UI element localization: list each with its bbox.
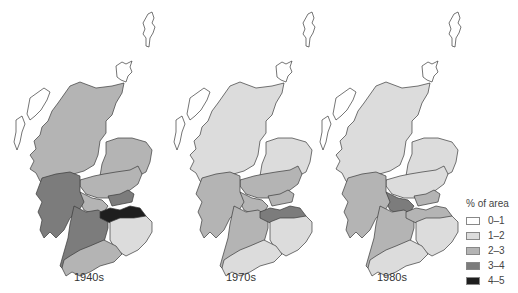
legend-label: 0–1 bbox=[488, 215, 505, 226]
legend-title: % of area bbox=[466, 198, 509, 209]
legend-label: 4–5 bbox=[488, 275, 505, 286]
legend: % of area 0–1 1–2 2–3 3–4 4–5 bbox=[466, 198, 509, 288]
legend-swatch bbox=[466, 217, 480, 225]
map-caption-1940s: 1940s bbox=[74, 271, 104, 283]
legend-label: 2–3 bbox=[488, 245, 505, 256]
map-1940s bbox=[0, 0, 160, 293]
legend-item-1-2: 1–2 bbox=[466, 228, 509, 243]
shetland-islands bbox=[143, 12, 155, 47]
shetland-islands bbox=[449, 12, 461, 47]
legend-swatch bbox=[466, 247, 480, 255]
scotland-map-1970s bbox=[160, 0, 320, 293]
scotland-map-1940s bbox=[0, 0, 160, 293]
legend-item-3-4: 3–4 bbox=[466, 258, 509, 273]
orkney-islands bbox=[422, 61, 438, 82]
orkney-islands bbox=[116, 61, 132, 82]
map-caption-1970s: 1970s bbox=[226, 271, 256, 283]
legend-swatch bbox=[466, 232, 480, 240]
map-1980s bbox=[306, 0, 466, 293]
map-caption-1980s: 1980s bbox=[377, 271, 407, 283]
legend-item-2-3: 2–3 bbox=[466, 243, 509, 258]
orkney-islands bbox=[276, 61, 292, 82]
legend-item-4-5: 4–5 bbox=[466, 273, 509, 288]
map-1970s bbox=[160, 0, 320, 293]
legend-swatch bbox=[466, 277, 480, 285]
legend-swatch bbox=[466, 262, 480, 270]
legend-label: 1–2 bbox=[488, 230, 505, 241]
scotland-map-1980s bbox=[306, 0, 466, 293]
legend-item-0-1: 0–1 bbox=[466, 213, 509, 228]
legend-label: 3–4 bbox=[488, 260, 505, 271]
